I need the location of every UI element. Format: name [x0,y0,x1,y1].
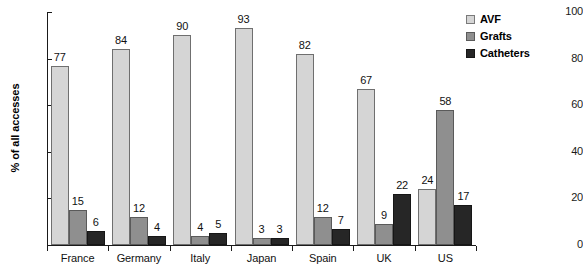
legend-item-grafts: Grafts [466,29,530,44]
x-axis-label-uk: UK [353,252,414,265]
bar-group: 77156 [51,12,105,245]
legend-item-avf: AVF [466,12,530,27]
bar-catheters-germany [148,236,166,245]
y-axis-tick-label: 100 [551,6,583,17]
bar-value-label: 4 [142,222,172,233]
bar-grafts-italy [191,236,209,245]
legend-label: AVF [480,14,501,25]
bar-value-label: 12 [308,203,338,214]
y-axis-tick-label: 40 [551,146,583,157]
bar-value-label: 90 [167,21,197,32]
bar-avf-france [51,66,69,245]
bar-value-label: 5 [203,219,233,230]
bar-value-label: 67 [351,75,381,86]
bar-avf-uk [357,89,375,245]
bar-group: 9333 [235,12,289,245]
bar-avf-italy [173,35,191,245]
bar-value-label: 17 [448,191,478,202]
bar-catheters-italy [209,233,227,245]
bar-value-label: 84 [106,35,136,46]
chart-legend: AVFGraftsCatheters [466,12,530,63]
bar-value-label: 82 [290,40,320,51]
y-axis-title: % of all accesses [9,43,21,213]
bar-catheters-us [454,205,472,245]
y-axis-tick-label: 60 [551,99,583,110]
bar-chart: 020406080100 % of all accesses FranceGer… [0,0,583,276]
x-axis-tick [292,246,293,251]
bar-catheters-japan [271,238,289,245]
bar-group: 67922 [357,12,411,245]
bar-catheters-uk [393,194,411,245]
y-axis-tick-label: 20 [551,192,583,203]
x-axis-tick [47,246,48,251]
x-axis-tick [170,246,171,251]
legend-swatch-avf-icon [466,15,475,24]
bar-avf-japan [235,28,253,245]
x-axis-tick [476,246,477,251]
bar-value-label: 93 [229,14,259,25]
x-axis-tick [353,246,354,251]
bar-grafts-uk [375,224,393,245]
x-axis-label-japan: Japan [231,252,292,265]
legend-item-catheters: Catheters [466,46,530,61]
bar-catheters-spain [332,229,350,245]
x-axis-tick [415,246,416,251]
plot-area: 7715684124904593338212767922245817 [47,12,476,245]
x-axis-tick [108,246,109,251]
bar-group: 82127 [296,12,350,245]
x-axis-line [47,245,476,246]
bar-value-label: 77 [45,52,75,63]
legend-swatch-grafts-icon [466,32,475,41]
bar-value-label: 12 [124,203,154,214]
bar-group: 245817 [418,12,472,245]
bar-avf-spain [296,54,314,245]
x-axis-label-germany: Germany [108,252,169,265]
bar-value-label: 58 [430,96,460,107]
x-axis-label-france: France [47,252,108,265]
legend-label: Catheters [480,48,530,59]
x-axis-label-italy: Italy [170,252,231,265]
bar-value-label: 7 [326,215,356,226]
bar-avf-us [418,189,436,245]
legend-label: Grafts [480,31,512,42]
bar-value-label: 6 [81,217,111,228]
bar-value-label: 15 [63,196,93,207]
bar-grafts-us [436,110,454,245]
bar-group: 84124 [112,12,166,245]
bar-catheters-france [87,231,105,245]
y-axis-tick-label: 0 [551,239,583,250]
legend-swatch-catheters-icon [466,49,475,58]
x-axis-tick [231,246,232,251]
y-axis-tick-label: 80 [551,53,583,64]
bar-value-label: 3 [265,224,295,235]
x-axis-label-us: US [415,252,476,265]
bar-avf-germany [112,49,130,245]
x-axis-label-spain: Spain [292,252,353,265]
bar-grafts-japan [253,238,271,245]
bar-group: 9045 [173,12,227,245]
